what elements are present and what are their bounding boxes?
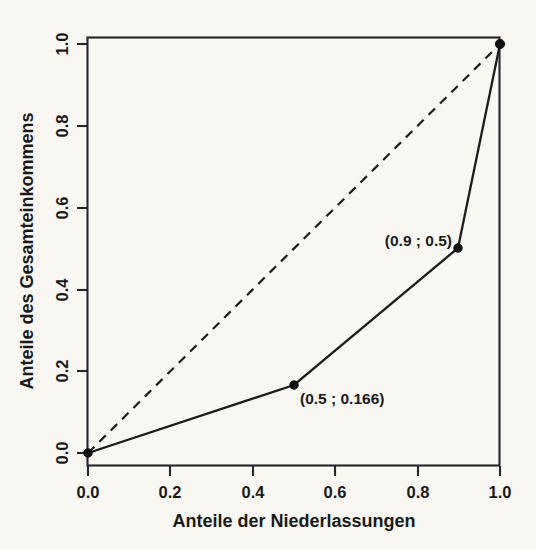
data-point-1-0 [495, 39, 504, 48]
x-tick-label-4: 0.8 [407, 483, 430, 501]
y-tick-label-0: 0.0 [53, 442, 71, 465]
y-tick-label-4: 0.8 [53, 115, 71, 138]
data-point-0-9 [454, 244, 462, 252]
annotation-label-0-5: (0.5 ; 0.166) [300, 390, 384, 407]
y-tick-label-1: 0.2 [53, 360, 71, 383]
data-point-0-5 [290, 381, 298, 389]
y-tick-label-5: 1.0 [53, 33, 71, 56]
y-tick-label-2: 0.4 [53, 278, 71, 302]
lorenz-curve-figure: 0.0 0.2 0.4 0.6 0.8 1.0 0.0 0.2 0.4 0.6 … [0, 0, 536, 549]
x-tick-label-3: 0.6 [324, 483, 347, 501]
figure-background [0, 0, 536, 549]
x-tick-label-1: 0.2 [159, 483, 182, 501]
chart-canvas: 0.0 0.2 0.4 0.6 0.8 1.0 0.0 0.2 0.4 0.6 … [0, 0, 536, 549]
data-point-origin [84, 449, 92, 457]
x-tick-label-0: 0.0 [77, 483, 100, 501]
y-axis-title: Anteile des Gesamteinkommens [17, 112, 37, 389]
x-tick-label-5: 1.0 [489, 483, 512, 501]
y-tick-label-3: 0.6 [53, 197, 71, 220]
x-axis-title: Anteile der Niederlassungen [172, 511, 415, 531]
annotation-label-0-9: (0.9 ; 0.5) [385, 232, 452, 249]
x-tick-label-2: 0.4 [242, 483, 266, 501]
